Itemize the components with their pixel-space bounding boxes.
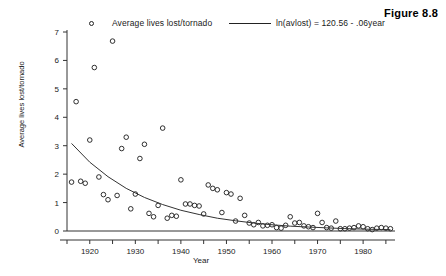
x-tick-label: 1930: [126, 247, 144, 256]
data-point: [119, 146, 124, 151]
x-tick-label: 1980: [354, 247, 372, 256]
data-point: [315, 211, 320, 216]
data-point: [69, 180, 74, 185]
data-point: [142, 142, 147, 147]
y-tick-label: 2: [55, 170, 60, 179]
data-point: [361, 224, 366, 229]
y-tick-label: 3: [55, 142, 60, 151]
data-point: [115, 193, 120, 198]
data-point: [210, 186, 215, 191]
data-point: [224, 190, 229, 195]
y-tick-label: 4: [55, 113, 60, 122]
data-point: [183, 202, 188, 207]
data-point: [179, 178, 184, 183]
figure-container: Average lives lost/tornado ln(avlost) = …: [0, 0, 446, 276]
x-tick-label: 1920: [81, 247, 99, 256]
data-point: [78, 179, 83, 184]
data-point: [292, 221, 297, 226]
y-tick-label: 5: [55, 85, 60, 94]
data-point: [169, 213, 174, 218]
data-point: [160, 126, 165, 131]
data-point: [92, 65, 97, 70]
data-point: [279, 226, 284, 231]
y-tick-label: 0: [55, 227, 60, 236]
data-point: [347, 226, 352, 231]
data-point: [151, 214, 156, 219]
data-point: [288, 214, 293, 219]
data-point: [297, 220, 302, 225]
data-point: [106, 197, 111, 202]
x-tick-label: 1940: [172, 247, 190, 256]
data-point: [124, 135, 129, 140]
data-point: [356, 224, 361, 229]
data-point: [229, 192, 234, 197]
data-point: [220, 210, 225, 215]
data-point: [302, 224, 307, 229]
y-tick-label: 1: [55, 199, 60, 208]
data-point: [128, 207, 133, 212]
data-point: [138, 156, 143, 161]
data-point: [174, 214, 179, 219]
data-point: [192, 203, 197, 208]
data-point: [83, 181, 88, 186]
data-point: [388, 226, 393, 231]
data-point: [215, 187, 220, 192]
data-point: [242, 213, 247, 218]
data-point: [320, 220, 325, 225]
fit-curve: [72, 143, 391, 229]
data-point: [87, 138, 92, 143]
y-tick-label: 7: [55, 28, 60, 37]
data-point: [97, 175, 102, 180]
data-point: [147, 211, 152, 216]
data-point: [110, 39, 115, 44]
x-tick-label: 1960: [263, 247, 281, 256]
data-point: [333, 219, 338, 224]
data-point: [101, 192, 106, 197]
data-point: [74, 99, 79, 104]
x-tick-label: 1950: [218, 247, 236, 256]
x-tick-label: 1970: [309, 247, 327, 256]
data-point: [197, 204, 202, 209]
data-point: [238, 196, 243, 201]
y-tick-label: 6: [55, 56, 60, 65]
data-point: [206, 183, 211, 188]
scatter-plot: 012345671920193019401950196019701980: [0, 0, 446, 276]
data-point: [165, 216, 170, 221]
data-point: [188, 202, 193, 207]
data-point: [274, 225, 279, 230]
